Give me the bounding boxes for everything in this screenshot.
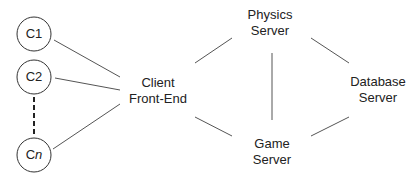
physics-server-line2: Server <box>248 23 293 39</box>
client-cn-label: Cn <box>26 147 43 163</box>
client-front-end-line2: Front-End <box>129 91 187 107</box>
edge-c2-client <box>55 78 120 90</box>
database-server-node[interactable]: Database Server <box>350 74 406 106</box>
physics-server-node[interactable]: Physics Server <box>248 7 293 39</box>
client-c2-label: C2 <box>26 69 43 85</box>
game-server-line2: Server <box>253 152 291 168</box>
database-server-line2: Server <box>350 90 406 106</box>
edge-client-game <box>195 117 232 136</box>
edge-cn-client <box>53 104 120 149</box>
database-server-line1: Database <box>350 74 406 90</box>
client-cn-suffix: n <box>35 147 42 162</box>
client-cn-prefix: C <box>26 147 35 162</box>
edges <box>53 38 349 149</box>
edge-c1-client <box>54 40 120 77</box>
physics-server-line1: Physics <box>248 7 293 23</box>
game-server-line1: Game <box>253 136 291 152</box>
edge-game-database <box>311 117 349 136</box>
client-front-end-line1: Client <box>129 75 187 91</box>
edge-client-physics <box>195 38 232 63</box>
client-c1-label: C1 <box>26 26 43 42</box>
game-server-node[interactable]: Game Server <box>253 136 291 168</box>
edge-physics-database <box>311 38 349 63</box>
client-front-end-node[interactable]: Client Front-End <box>129 75 187 107</box>
